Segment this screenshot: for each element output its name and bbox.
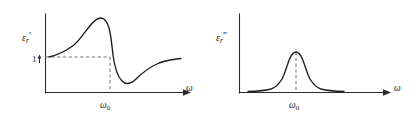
x-axis-label-right: ω [394,84,401,94]
x-axis-arrowhead [383,89,391,95]
omega-symbol: ω [100,100,107,110]
baseline-tick-arrowhead [38,55,42,59]
baseline-tick-label: 1 [32,55,37,64]
resonance-label-right: ω0 [289,101,299,112]
y-axis-label-real: εr′ [22,31,31,45]
permittivity-figure: εr′ 1 ω0 ω εr″ ω0 ω [0,0,411,121]
y-axis-label-imaginary: εr″ [216,31,227,45]
eps-double-prime: ″ [223,30,227,41]
x-axis-label-left: ω [186,84,193,94]
imaginary-permittivity-plot [205,0,410,121]
omega-symbol: ω [289,100,296,110]
real-permittivity-panel: εr′ 1 ω0 ω [0,0,205,121]
eps-prime: ′ [29,30,32,41]
real-permittivity-curve [49,18,181,84]
imaginary-permittivity-panel: εr″ ω0 ω [205,0,410,121]
omega-subscript: 0 [296,104,300,112]
omega-subscript: 0 [107,104,111,112]
resonance-label-left: ω0 [100,101,110,112]
